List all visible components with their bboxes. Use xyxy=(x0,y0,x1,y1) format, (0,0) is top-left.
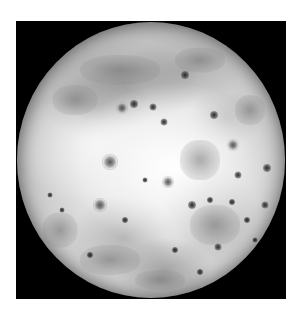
volcanic-spot xyxy=(143,178,148,183)
volcanic-spot xyxy=(197,269,203,275)
volcanic-caldera xyxy=(93,198,107,212)
volcanic-spot xyxy=(122,217,128,223)
volcanic-spot xyxy=(188,201,196,209)
dark-region xyxy=(235,95,265,125)
dark-region xyxy=(80,245,140,275)
volcanic-spot xyxy=(229,199,235,205)
volcanic-spot xyxy=(215,244,222,251)
dark-region xyxy=(43,213,78,248)
volcanic-spot xyxy=(253,238,258,243)
volcanic-spot xyxy=(150,104,157,111)
image-frame xyxy=(16,21,286,299)
volcanic-spot xyxy=(210,111,218,119)
volcanic-spot xyxy=(207,197,213,203)
volcanic-spot xyxy=(87,252,93,258)
dark-region xyxy=(175,48,225,73)
dark-region xyxy=(53,85,98,115)
io-moon-disk xyxy=(17,22,285,298)
volcanic-caldera xyxy=(227,139,239,151)
volcanic-spot xyxy=(161,119,168,126)
dark-region xyxy=(135,270,185,290)
dark-region xyxy=(80,55,160,85)
volcanic-spot xyxy=(181,71,189,79)
volcanic-spot xyxy=(263,164,271,172)
dark-region xyxy=(180,140,220,180)
volcanic-spot xyxy=(130,100,138,108)
volcanic-spot xyxy=(98,288,103,293)
volcanic-caldera xyxy=(116,102,128,114)
volcanic-caldera xyxy=(162,176,174,188)
volcanic-caldera xyxy=(102,154,118,170)
volcanic-spot xyxy=(48,193,53,198)
volcanic-spot xyxy=(244,217,250,223)
volcanic-spot xyxy=(262,202,269,209)
volcanic-spot xyxy=(172,247,178,253)
dark-region xyxy=(190,205,240,245)
volcanic-spot xyxy=(235,172,242,179)
volcanic-spot xyxy=(60,208,65,213)
